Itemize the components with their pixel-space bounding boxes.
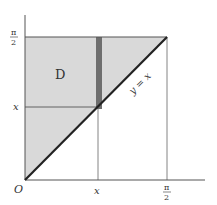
x-tick-two: 2 (164, 193, 169, 202)
vertical-strip (96, 37, 102, 109)
integration-region-diagram: D y = x O x π 2 x π 2 (0, 0, 217, 205)
origin-label: O (14, 183, 23, 196)
y-tick-two: 2 (11, 38, 16, 47)
region-label: D (55, 67, 65, 82)
x-tick-pi: π (164, 183, 169, 192)
y-tick-pi: π (11, 28, 16, 37)
x-tick-x: x (94, 185, 100, 196)
y-tick-x: x (13, 101, 19, 112)
